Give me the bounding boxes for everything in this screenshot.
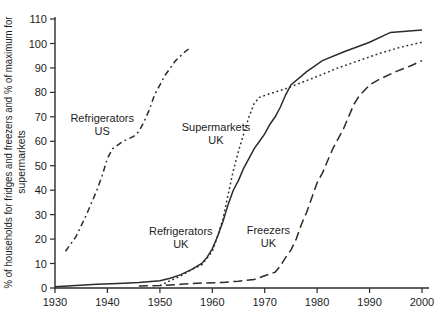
x-tick-label: 1990	[357, 296, 381, 308]
y-tick-label: 30	[35, 209, 47, 221]
series-label-freezers-uk: FreezersUK	[247, 224, 291, 249]
chart-svg: 1930194019501960197019801990200001020304…	[0, 0, 443, 323]
y-tick-label: 40	[35, 184, 47, 196]
y-tick-label: 110	[29, 13, 47, 25]
x-tick-label: 1980	[305, 296, 329, 308]
y-tick-label: 100	[29, 38, 47, 50]
y-tick-label: 0	[41, 282, 47, 294]
series-label-refrigerators-us: RefrigeratorsUS	[70, 112, 134, 137]
y-tick-label: 50	[35, 160, 47, 172]
y-axis-title: % of households for fridges and freezers…	[2, 16, 27, 288]
chart: 1930194019501960197019801990200001020304…	[0, 0, 443, 323]
y-tick-label: 90	[35, 62, 47, 74]
series-line-refrigerators-us	[66, 47, 192, 251]
series-line-refrigerators-uk	[55, 30, 422, 287]
x-tick-label: 1930	[43, 296, 67, 308]
x-tick-label: 1940	[95, 296, 119, 308]
y-tick-label: 70	[35, 111, 47, 123]
y-tick-label: 10	[35, 258, 47, 270]
series-line-freezers-uk	[139, 61, 422, 286]
y-tick-label: 60	[35, 135, 47, 147]
x-tick-label: 2000	[410, 296, 434, 308]
series-label-refrigerators-uk: RefrigeratorsUK	[149, 225, 213, 250]
y-tick-label: 80	[35, 86, 47, 98]
x-tick-label: 1960	[200, 296, 224, 308]
x-tick-label: 1950	[148, 296, 172, 308]
y-tick-label: 20	[35, 233, 47, 245]
x-tick-label: 1970	[252, 296, 276, 308]
